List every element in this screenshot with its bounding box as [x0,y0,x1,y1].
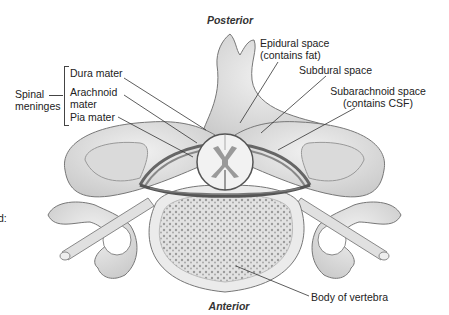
subarachnoid-line1: Subarachnoid space [323,85,433,97]
arachnoid-mater-label: Arachnoid mater [70,86,117,110]
epidural-line1: Epidural space [260,37,329,49]
dura-mater-label: Dura mater [70,67,123,79]
epidural-line2: (contains fat) [260,49,329,61]
spinal-meninges-label: Spinal meninges [15,88,61,112]
spinal-meninges-line1: Spinal [15,88,61,100]
vertebra-cross-section-illustration [0,0,449,315]
subarachnoid-line2: (contains CSF) [323,97,433,109]
arachnoid-line1: Arachnoid [70,86,117,98]
vertebral-body [149,185,304,292]
subarachnoid-space-label: Subarachnoid space (contains CSF) [323,85,433,109]
posterior-label: Posterior [205,14,255,26]
spinal-meninges-line2: meninges [15,100,61,112]
meninges-bracket [64,66,69,126]
group-connector [49,95,63,96]
pia-mater-label: Pia mater [70,111,115,123]
spinal-cord [197,134,253,190]
arachnoid-line2: mater [70,98,117,110]
diagram-canvas: Posterior Anterior Spinal meninges Dura … [0,0,449,315]
anterior-label: Anterior [204,300,254,312]
body-of-vertebra-label: Body of vertebra [311,291,388,303]
subdural-space-label: Subdural space [299,64,372,76]
epidural-space-label: Epidural space (contains fat) [260,37,329,61]
cropped-edge-text: d: [0,212,7,224]
